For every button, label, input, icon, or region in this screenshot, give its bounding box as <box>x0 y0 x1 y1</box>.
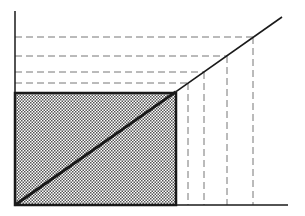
diagonal-line <box>176 17 282 92</box>
diagram-canvas <box>0 0 305 216</box>
diagram-svg <box>0 0 305 216</box>
